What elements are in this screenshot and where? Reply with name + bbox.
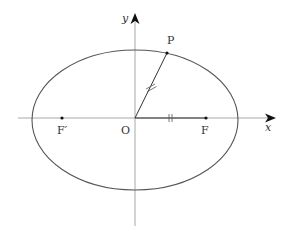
- segment-op: [135, 53, 167, 118]
- point-f-prime: [60, 116, 63, 119]
- label-f-prime: F′: [57, 124, 68, 137]
- label-f: F: [201, 124, 209, 137]
- ellipse-diagram: P F F′ O x y: [0, 0, 295, 243]
- label-x-axis: x: [265, 121, 272, 134]
- label-y-axis: y: [121, 12, 129, 25]
- label-p: P: [167, 34, 175, 47]
- point-p: [165, 51, 168, 54]
- label-origin: O: [121, 124, 130, 137]
- point-f: [204, 116, 207, 119]
